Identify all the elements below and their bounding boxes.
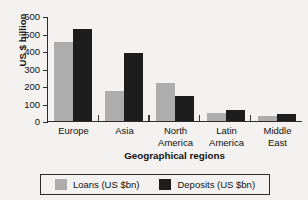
y-axis-tick-label: 500 bbox=[24, 30, 40, 40]
y-axis-tick bbox=[43, 70, 48, 71]
bar bbox=[207, 113, 226, 121]
bar-chart: US $ billion 0100200300400500600 EuropeA… bbox=[0, 0, 308, 200]
legend-item-loans: Loans (US $bn) bbox=[55, 179, 140, 190]
y-axis-tick bbox=[43, 17, 48, 18]
bar-group bbox=[150, 17, 201, 121]
y-axis-tick bbox=[43, 122, 48, 123]
x-axis-title: Geographical regions bbox=[47, 150, 302, 161]
bar-group bbox=[99, 17, 150, 121]
x-axis-tick-label: NorthAmerica bbox=[150, 125, 201, 149]
x-axis-tick-label: MiddleEast bbox=[252, 125, 303, 149]
bar-group bbox=[200, 17, 251, 121]
x-axis-tick-label: Europe bbox=[48, 125, 99, 149]
bar bbox=[124, 53, 143, 120]
y-axis-tick bbox=[43, 87, 48, 88]
x-axis-tick-label: Asia bbox=[99, 125, 150, 149]
bar bbox=[73, 29, 92, 121]
y-axis-tick-label: 600 bbox=[24, 12, 40, 22]
bar bbox=[175, 96, 194, 120]
legend-label-loans: Loans (US $bn) bbox=[73, 179, 140, 190]
y-axis-tick bbox=[43, 35, 48, 36]
chart-legend: Loans (US $bn) Deposits (US $bn) bbox=[40, 174, 270, 195]
legend-item-deposits: Deposits (US $bn) bbox=[159, 179, 255, 190]
bar bbox=[277, 114, 296, 121]
bar-groups bbox=[48, 17, 302, 121]
cropped-title-strip bbox=[0, 0, 308, 6]
legend-swatch-gray-icon bbox=[55, 179, 67, 190]
x-axis-tick-label: LatinAmerica bbox=[201, 125, 252, 149]
y-axis-tick-label: 400 bbox=[24, 47, 40, 57]
x-axis-tick-labels: EuropeAsiaNorthAmericaLatinAmericaMiddle… bbox=[48, 125, 303, 149]
y-axis-tick-label: 100 bbox=[24, 100, 40, 110]
y-axis-tick bbox=[43, 105, 48, 106]
bar bbox=[105, 91, 124, 120]
bar bbox=[156, 83, 175, 121]
bar bbox=[54, 42, 73, 121]
plot-area: 0100200300400500600 bbox=[47, 17, 302, 122]
y-axis-tick bbox=[43, 52, 48, 53]
legend-label-deposits: Deposits (US $bn) bbox=[177, 179, 255, 190]
x-axis-line bbox=[47, 121, 302, 122]
y-axis-tick-label: 200 bbox=[24, 82, 40, 92]
legend-swatch-black-icon bbox=[159, 179, 171, 190]
bar-group bbox=[251, 17, 302, 121]
bar bbox=[258, 116, 277, 120]
y-axis-tick-label: 300 bbox=[24, 65, 40, 75]
bar-group bbox=[48, 17, 99, 121]
y-axis-tick-label: 0 bbox=[35, 117, 40, 127]
bar bbox=[226, 110, 245, 120]
